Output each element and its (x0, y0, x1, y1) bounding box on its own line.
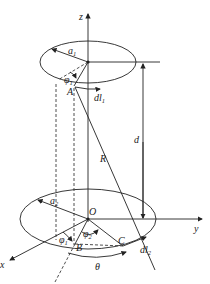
distance-d-label: d (134, 134, 140, 145)
phi1-top-arc (70, 72, 76, 78)
dashed-B-to-C (75, 244, 123, 246)
phi1-bottom-label: φ1 (59, 234, 68, 246)
dl1-arrow (75, 87, 100, 89)
point-C-label: C (118, 235, 125, 246)
point-B-label: B (76, 242, 82, 253)
separation-R-label: R (99, 153, 106, 164)
theta-label: θ (95, 261, 100, 272)
dl1-label: dl1 (94, 92, 105, 104)
dl2-label: dl2 (140, 244, 152, 256)
dashed-projection-top (58, 62, 88, 80)
y-axis-label: y (193, 223, 199, 234)
x-axis-label: x (0, 259, 5, 270)
dashed-extension-B (55, 244, 75, 282)
radius-a1-label: a1 (68, 45, 76, 57)
point-A-label: A (66, 86, 74, 97)
radius-a2-label: a2 (50, 195, 59, 207)
radius-a2-arrow (38, 200, 88, 219)
z-axis-label: z (78, 11, 83, 22)
origin-label: O (89, 206, 96, 217)
phi1-top-label: φ1 (64, 74, 73, 86)
phi2-label: φ2 (83, 228, 93, 240)
coaxial-loops-diagram: z a1 φ1 A dl1 d R y x O a2 φ2 φ1 B C dl2 (0, 0, 210, 284)
